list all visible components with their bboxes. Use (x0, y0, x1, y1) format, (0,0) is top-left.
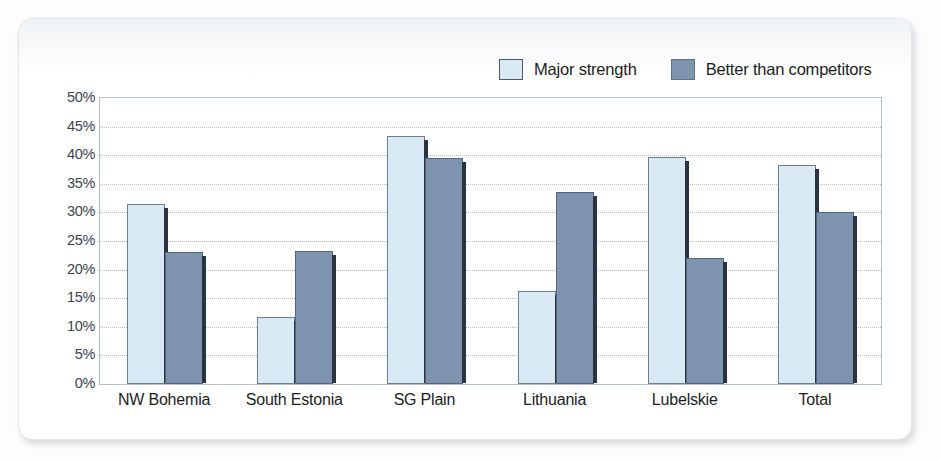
light-blue-swatch-icon (499, 59, 523, 80)
y-axis-tick-label: 30% (67, 203, 95, 219)
bar-group (648, 98, 724, 384)
bar (165, 252, 203, 384)
bar (686, 258, 724, 384)
x-axis-tick-label: Total (799, 391, 832, 409)
bar-series-container (100, 98, 881, 384)
y-axis-tick-label: 5% (75, 346, 95, 362)
bar (387, 136, 425, 384)
bar-group (778, 98, 854, 384)
x-axis-labels: NW BohemiaSouth EstoniaSG PlainLithuania… (99, 391, 880, 417)
y-axis-tick-label: 10% (67, 318, 95, 334)
y-axis-tick-label: 0% (75, 375, 95, 391)
bar (648, 157, 686, 384)
bar (816, 212, 854, 384)
x-axis-tick-label: NW Bohemia (118, 391, 210, 409)
scanned-page: Major strength Better than competitors 0… (0, 0, 941, 461)
bar (425, 158, 463, 384)
bar (127, 204, 165, 384)
y-axis-tick-label: 15% (67, 289, 95, 305)
y-axis-labels: 0%5%10%15%20%25%30%35%40%45%50% (47, 97, 95, 383)
bar (556, 192, 594, 384)
y-axis-tick-label: 35% (67, 175, 95, 191)
bar-group (518, 98, 594, 384)
bar (778, 165, 816, 384)
x-axis-tick-label: Lubelskie (652, 391, 718, 409)
bar-group (127, 98, 203, 384)
chart-legend: Major strength Better than competitors (499, 59, 872, 80)
bar (518, 291, 556, 384)
legend-item-better-than-competitors: Better than competitors (671, 59, 872, 80)
y-axis-tick-label: 20% (67, 261, 95, 277)
bar-group (257, 98, 333, 384)
y-axis-tick-label: 50% (67, 89, 95, 105)
x-axis-tick-label: SG Plain (394, 391, 456, 409)
y-axis-tick-label: 40% (67, 146, 95, 162)
bar (257, 317, 295, 384)
legend-label: Major strength (534, 60, 637, 79)
dark-blue-swatch-icon (671, 59, 695, 80)
bar-group (387, 98, 463, 384)
legend-label: Better than competitors (706, 60, 872, 79)
bar (295, 251, 333, 384)
y-axis-tick-label: 25% (67, 232, 95, 248)
legend-item-major-strength: Major strength (499, 59, 637, 80)
chart-card: Major strength Better than competitors 0… (18, 18, 912, 440)
plot-area (99, 97, 882, 385)
x-axis-tick-label: South Estonia (246, 391, 343, 409)
x-axis-tick-label: Lithuania (523, 391, 586, 409)
y-axis-tick-label: 45% (67, 118, 95, 134)
